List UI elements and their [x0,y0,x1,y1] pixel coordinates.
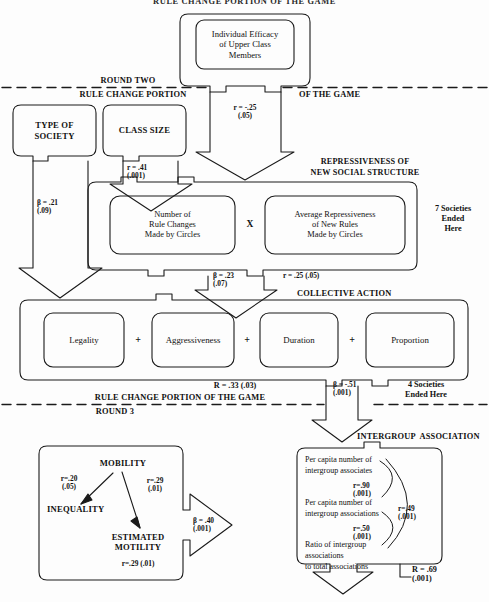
rule-change-portion-label: RULE CHANGE PORTION [58,90,208,99]
mobility-label: MOBILITY [78,459,168,469]
mobility-to-inequality-stat: r=.20 (.05) [48,475,90,491]
number-of-rule-changes-label: Number of Rule Changes Made by Circles [110,196,235,254]
estimated-motility-label: ESTIMATED MOTILITY [98,533,178,552]
multiplier-symbol: X [235,212,265,238]
four-societies-ended-label: 4 Societies Ended Here [381,378,471,402]
mobility-to-motility-stat: r=.29 (.01) [134,477,176,493]
intergroup-item-3: Ratio of intergroup associations to tota… [305,540,405,572]
mobility-to-motility-head [131,517,140,528]
plus-2: + [234,327,260,353]
motility-reliability-stat: r=.29 (.01) [96,560,180,568]
intergroup-item-2: Per capita number of intergroup associat… [305,498,405,520]
intergroup-r50-stat: r=.50 (.001) [353,525,393,541]
intergroup-item-1: Per capita number of intergroup associat… [305,455,401,477]
efficacy-to-repressiveness-stat: r = -.25 (.05) [216,104,274,120]
class-size-label: CLASS SIZE [103,105,186,156]
round-two-label: ROUND TWO [58,76,198,85]
type-of-society-label: TYPE OF SOCIETY [13,105,96,156]
diagram-canvas: RULE CHANGE PORTION OF THE GAME [0,0,489,602]
round3-to-intergroup-stat: β = .40 (.001) [193,517,241,533]
aggressiveness-label: Aggressiveness [152,313,234,367]
round-3-label: ROUND 3 [55,407,175,416]
proportion-label: Proportion [366,313,454,367]
repressiveness-to-collective-stat: β = .23 (.07) [213,272,265,288]
plus-1: + [124,327,152,353]
of-the-game-label: OF THE GAME [299,90,360,99]
intergroup-association-heading: INTERGROUP ASSOCIATION [357,432,480,441]
repressiveness-r-stat: r = .25 (.05) [283,272,373,280]
collective-action-R-stat: R = .33 (.03) [175,382,295,391]
class-size-to-rule-changes-stat: r = .41 (.001) [127,164,183,180]
legality-label: Legality [44,313,124,367]
inequality-label: INEQUALITY [47,505,104,515]
intergroup-r90-stat: r=.90 (.001) [353,482,393,498]
seven-societies-ended-label: 7 Societies Ended Here [421,198,485,240]
collective-action-heading: COLLECTIVE ACTION [297,289,391,298]
repressiveness-heading-line1: REPRESSIVENESS OF [285,157,445,166]
plus-3: + [338,327,366,353]
collective-to-intergroup-stat: β = -.51 (.001) [333,381,381,397]
duration-label: Duration [260,313,338,367]
type-of-society-stat: β = .21 (.09) [37,199,89,215]
rule-change-portion-of-the-game-label: RULE CHANGE PORTION OF THE GAME [55,393,305,402]
individual-efficacy-label: Individual Efficacy of Upper Class Membe… [196,20,294,69]
intergroup-r49-stat: r=.49 (.001) [398,505,438,521]
average-repressiveness-label: Average Repressiveness of New Rules Made… [265,196,405,254]
type-of-society-to-collective-arrow [19,161,102,298]
intergroup-R-stat: R = .69 (.001) [412,566,468,583]
repressiveness-heading-line2: NEW SOCIAL STRUCTURE [285,168,445,177]
